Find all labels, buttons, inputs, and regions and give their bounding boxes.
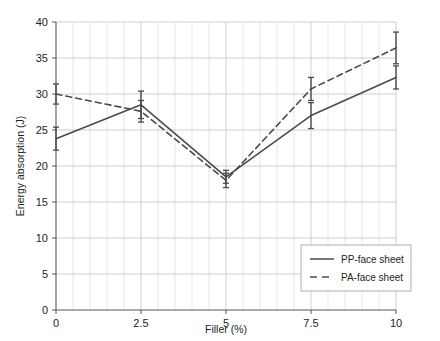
y-tick-label: 10 xyxy=(36,232,48,244)
chart-figure: 0510152025303540 02.557.510 Energy absor… xyxy=(0,0,440,341)
x-tick-label: 0 xyxy=(53,317,59,329)
y-tick-label: 20 xyxy=(36,160,48,172)
y-tick-label: 30 xyxy=(36,88,48,100)
x-tick-label: 7.5 xyxy=(303,317,318,329)
x-axis-title: Filler (%) xyxy=(205,323,247,335)
y-tick-label: 15 xyxy=(36,196,48,208)
x-tick-label: 2.5 xyxy=(133,317,148,329)
legend-label-pa: PA-face sheet xyxy=(341,272,403,283)
y-tick-label: 0 xyxy=(42,304,48,316)
y-tick-label: 35 xyxy=(36,52,48,64)
y-axis-title: Energy absorption (J) xyxy=(14,116,26,216)
chart-legend[interactable]: PP-face sheet PA-face sheet xyxy=(301,245,411,291)
y-tick-label: 5 xyxy=(42,268,48,280)
y-tick-label: 40 xyxy=(36,16,48,28)
legend-label-pp: PP-face sheet xyxy=(341,254,404,265)
y-tick-label: 25 xyxy=(36,124,48,136)
legend-frame xyxy=(301,245,411,291)
energy-absorption-line-chart: 0510152025303540 02.557.510 Energy absor… xyxy=(0,0,440,341)
x-tick-label: 10 xyxy=(390,317,402,329)
